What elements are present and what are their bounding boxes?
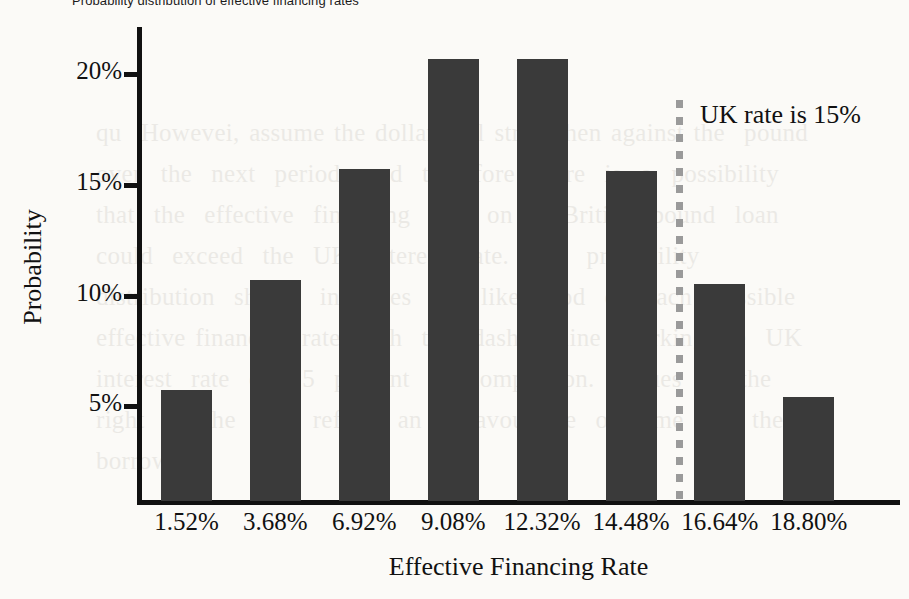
uk-rate-annotation-label: UK rate is 15% [700,100,861,130]
y-axis-line [137,27,142,505]
y-tick-label: 10% [36,279,122,307]
bar [606,171,657,501]
y-tick-label: 5% [36,389,122,417]
bar [783,397,834,501]
bar [161,390,212,501]
bar [250,280,301,501]
y-tick-label: 20% [36,57,122,85]
probability-distribution-bar-chart: Probability distribution of effective fi… [0,0,909,599]
y-tick-mark [124,404,138,409]
bar [428,59,479,501]
x-tick-label: 18.80% [749,508,869,536]
x-axis-title: Effective Financing Rate [137,552,900,582]
uk-rate-reference-line [676,100,683,505]
bar [694,284,745,501]
y-axis-title: Probability [18,187,48,347]
chart-title: Probability distribution of effective fi… [72,0,359,8]
y-tick-mark [124,294,138,299]
bar [339,169,390,501]
y-tick-label: 15% [36,168,122,196]
y-tick-mark [124,183,138,188]
y-tick-mark [124,72,138,77]
bar [517,59,568,501]
